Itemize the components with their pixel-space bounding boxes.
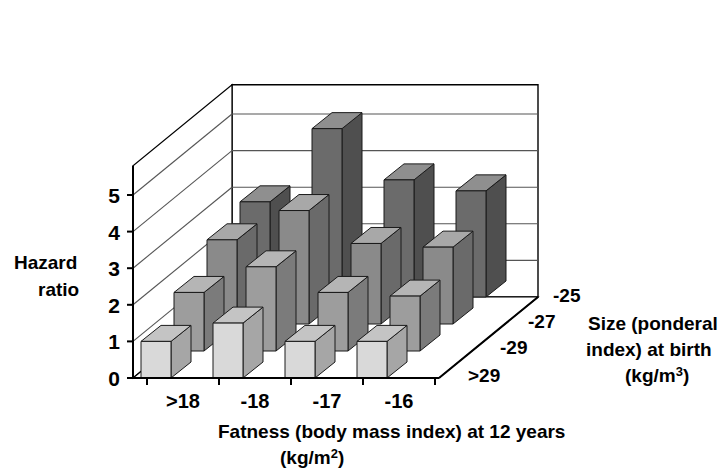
x-axis-title-line2-suffix: ) [338, 447, 344, 468]
y-tick-label-4: 4 [108, 221, 120, 244]
bar--18->29 [213, 307, 263, 378]
z-axis-title-line2: index) at birth [586, 339, 712, 360]
hazard-ratio-3d-bar-chart: 543210Hazardratio>18-18-17-16Fatness (bo… [0, 0, 722, 475]
x-axis-title-superscript: 2 [331, 446, 338, 461]
z-tick-label--25: -25 [553, 285, 581, 306]
x-axis-title-line2: (kg/m2) [280, 446, 344, 468]
z-tick-label-gt29: >29 [468, 365, 500, 386]
y-tick-label-0: 0 [108, 367, 120, 390]
y-axis-title-line1: Hazard [14, 252, 77, 273]
z-axis-title-line1: Size (ponderal [588, 313, 718, 334]
y-tick-label-3: 3 [108, 257, 120, 280]
y-tick-label-1: 1 [108, 330, 120, 353]
z-axis-title-line3-suffix: ) [683, 365, 689, 386]
z-tick-label--29: -29 [500, 337, 527, 358]
z-tick-label--27: -27 [528, 311, 555, 332]
y-tick-label-5: 5 [108, 184, 120, 207]
z-axis-title-line3: (kg/m3) [625, 364, 689, 386]
y-axis-title-line2: ratio [38, 279, 79, 300]
x-tick-label--17: -17 [313, 390, 342, 412]
y-tick-label-2: 2 [108, 294, 120, 317]
x-tick-label--16: -16 [385, 390, 414, 412]
x-tick-label--18: -18 [241, 390, 270, 412]
x-tick-label->18: >18 [166, 390, 200, 412]
chart-container: 543210Hazardratio>18-18-17-16Fatness (bo… [0, 0, 722, 475]
x-axis-title-line1: Fatness (body mass index) at 12 years [218, 421, 565, 442]
z-axis-title-superscript: 3 [676, 364, 683, 379]
